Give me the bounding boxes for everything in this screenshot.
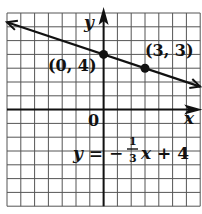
data-point	[99, 50, 108, 59]
coordinate-plane: y x 0 (0, 4) (3, 3) y = − 1 3 x + 4	[0, 0, 202, 214]
origin-label: 0	[88, 111, 99, 130]
equation-rhs: x + 4	[140, 143, 189, 163]
data-point	[141, 64, 150, 73]
point-label-3-3: (3, 3)	[145, 41, 194, 60]
equation-eq: = −	[83, 143, 123, 163]
point-label-0-4: (0, 4)	[48, 56, 97, 75]
equation-lhs: y = −	[72, 143, 123, 163]
y-axis-label: y	[83, 12, 95, 32]
x-axis-label: x	[183, 108, 195, 128]
equation-denominator: 3	[129, 152, 137, 165]
equation-numerator: 1	[129, 135, 137, 148]
